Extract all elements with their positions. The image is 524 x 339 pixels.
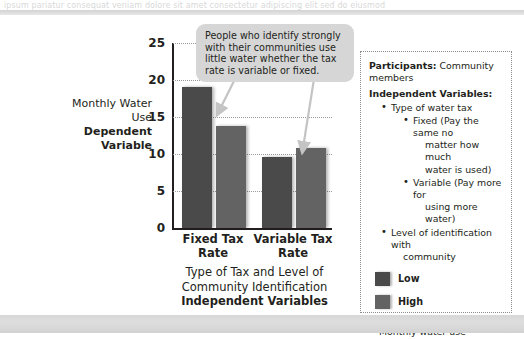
legend-item-high: High bbox=[375, 295, 504, 309]
iv-subitem-continuation: using more water) bbox=[413, 201, 504, 225]
y-axis-title: Monthly Water Use Dependent Variable bbox=[60, 97, 152, 153]
y-tick-label-25: 25 bbox=[148, 36, 165, 50]
y-tick-label-5: 5 bbox=[157, 184, 165, 198]
legend-label-high: High bbox=[398, 296, 423, 308]
notes-panel: Participants: Community members Independ… bbox=[360, 51, 512, 313]
independent-variables-list: Type of water taxFixed (Pay the same nom… bbox=[369, 102, 504, 264]
callout-bubble: People who identify strongly with their … bbox=[196, 24, 354, 82]
group-label-variable-tax-rate: Variable Tax Rate bbox=[250, 233, 336, 260]
bar-chart-figure: Monthly Water Use Dependent Variable 051… bbox=[0, 15, 524, 315]
bar-variable-tax-rate-high bbox=[296, 148, 326, 228]
iv-sublist-0: Fixed (Pay the same nomatter how muchwat… bbox=[391, 115, 504, 226]
participants-line: Participants: Community members bbox=[369, 60, 504, 84]
legend-item-low: Low bbox=[375, 272, 504, 286]
bar-fixed-tax-rate-high bbox=[216, 126, 246, 228]
group-label-fixed-tax-rate: Fixed Tax Rate bbox=[170, 233, 256, 260]
x-axis-line bbox=[172, 228, 332, 230]
iv-item-0: Type of water taxFixed (Pay the same nom… bbox=[381, 102, 504, 226]
y-tick-label-15: 15 bbox=[148, 110, 165, 124]
legend-label-low: Low bbox=[398, 273, 420, 285]
bottom-divider-bar bbox=[0, 315, 524, 333]
iv-item-label: Type of water tax bbox=[391, 102, 472, 113]
iv-subitem-continuation: matter how much bbox=[413, 139, 504, 163]
iv-item-label: Level of identification with bbox=[391, 227, 492, 250]
y-tick-label-20: 20 bbox=[148, 73, 165, 87]
x-axis-title-line2: Community Identification bbox=[152, 280, 357, 295]
x-axis-title-bold: Independent Variables bbox=[152, 294, 357, 309]
bar-variable-tax-rate-low bbox=[262, 157, 292, 228]
iv-subitem-continuation: water is used) bbox=[413, 164, 504, 176]
x-axis-title: Type of Tax and Level of Community Ident… bbox=[152, 265, 357, 309]
legend-swatch-high bbox=[375, 295, 390, 309]
iv-subitem-label: Fixed (Pay the same no bbox=[413, 115, 479, 138]
iv-subitem-0-1: Variable (Pay more forusing more water) bbox=[403, 177, 504, 226]
iv-subitem-0-0: Fixed (Pay the same nomatter how muchwat… bbox=[403, 115, 504, 176]
participants-label: Participants: bbox=[369, 60, 437, 71]
y-axis-title-bold: Dependent Variable bbox=[60, 125, 152, 153]
iv-item-1: Level of identification withcommunity bbox=[381, 227, 504, 264]
y-axis-title-regular: Monthly Water Use bbox=[60, 97, 152, 125]
iv-item-continuation: community bbox=[391, 251, 504, 263]
legend-rows: LowHigh bbox=[369, 272, 504, 309]
bar-fixed-tax-rate-low bbox=[182, 87, 212, 228]
y-tick-label-10: 10 bbox=[148, 147, 165, 161]
legend-swatch-low bbox=[375, 272, 390, 286]
y-axis-line bbox=[172, 43, 174, 228]
iv-subitem-label: Variable (Pay more for bbox=[413, 177, 501, 200]
y-tick-label-0: 0 bbox=[157, 221, 165, 235]
independent-variables-heading: Independent Variables: bbox=[369, 88, 504, 100]
x-axis-title-line1: Type of Tax and Level of bbox=[152, 265, 357, 280]
